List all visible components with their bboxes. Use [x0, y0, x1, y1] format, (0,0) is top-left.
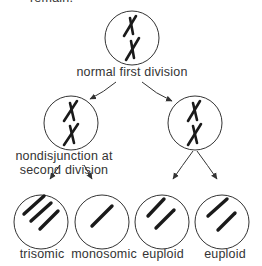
- arrow-to-left: [90, 82, 116, 99]
- caption-fragment: remain.: [30, 0, 73, 5]
- monosomic-cell: [75, 195, 129, 249]
- meiosis-nondisjunction-diagram: [0, 0, 262, 266]
- arrow-to-euploid-1: [173, 151, 193, 179]
- label-normal-first-division: normal first division: [76, 65, 187, 79]
- label-trisomic: trisomic: [20, 247, 65, 261]
- trisomic-cell: [14, 195, 68, 249]
- top-cell: [105, 11, 159, 65]
- label-nondisjunction-line2: second division: [15, 163, 112, 177]
- arrow-to-euploid-2: [197, 151, 217, 179]
- dyad-chromosome-upper: [124, 16, 136, 36]
- middle-left-cell: [44, 96, 98, 150]
- arrow-to-right: [142, 82, 172, 101]
- label-nondisjunction-line1: nondisjunction at: [15, 149, 112, 163]
- middle-right-cell: [168, 96, 222, 150]
- label-monosomic: monosomic: [71, 247, 137, 261]
- dyad-chromosome-lower: [126, 38, 139, 60]
- label-euploid-1: euploid: [142, 247, 184, 261]
- euploid-cell-1: [135, 195, 189, 249]
- euploid-cell-2: [195, 195, 249, 249]
- label-nondisjunction: nondisjunction at second division: [15, 149, 112, 177]
- label-euploid-2: euploid: [204, 247, 246, 261]
